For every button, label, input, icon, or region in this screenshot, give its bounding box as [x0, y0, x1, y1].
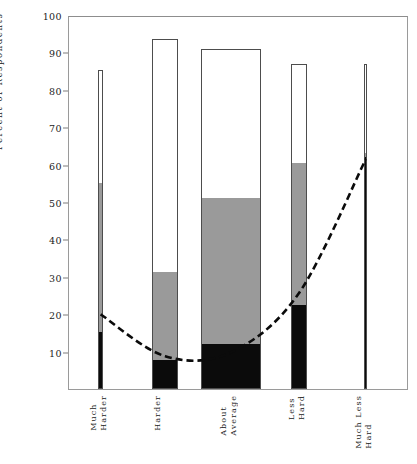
figure: Percent of Respondents 10090807060504030… [0, 0, 417, 464]
y-tick-label: 40 [0, 235, 62, 246]
trend-curve [69, 17, 407, 389]
y-tick-label: 20 [0, 310, 62, 321]
y-tick-label: 100 [0, 11, 62, 22]
y-tick-label: 80 [0, 85, 62, 96]
x-label-line-2: Hard [297, 395, 307, 420]
x-tick-label-about-average: AboutAverage [219, 395, 239, 436]
plot-inner [69, 17, 407, 389]
figure-caption [62, 452, 362, 461]
y-tick-label: 50 [0, 198, 62, 209]
x-tick-label-much-less-hard: Much LessHard [354, 395, 374, 449]
y-tick-label: 70 [0, 123, 62, 134]
x-label-line-1: Much Less [354, 395, 363, 449]
y-tick-label: 90 [0, 48, 62, 59]
y-tick-label: 30 [0, 272, 62, 283]
x-tick-label-much-harder: MuchHarder [89, 395, 109, 431]
trend-curve-path [101, 159, 366, 361]
x-tick-label-less-hard: LessHard [287, 395, 307, 420]
x-label-line-2: Harder [99, 395, 109, 431]
x-label-line-1: Harder [153, 395, 162, 431]
x-label-line-1: Much [89, 403, 98, 430]
plot-area [68, 16, 408, 390]
y-tick-label: 60 [0, 160, 62, 171]
x-label-line-1: About [219, 406, 228, 436]
x-label-line-2: Average [229, 395, 239, 436]
x-tick-label-harder: Harder [153, 395, 163, 431]
y-tick-label: 10 [0, 347, 62, 358]
x-label-line-2: Hard [364, 395, 374, 449]
x-label-line-1: Less [287, 397, 296, 420]
